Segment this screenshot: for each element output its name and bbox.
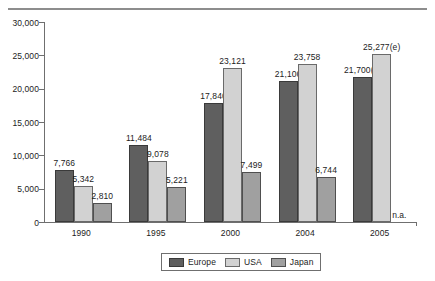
x-axis-line	[44, 222, 417, 223]
bar-usa-2005: 25,277(e)	[372, 54, 391, 223]
legend-label: USA	[244, 257, 262, 267]
y-tick-mark	[39, 155, 44, 156]
y-tick-label: 30,000	[12, 18, 39, 28]
x-axis-label-1990: 1990	[44, 228, 119, 238]
bar-value-label: 5,221	[166, 175, 188, 185]
bar-japan-1995: 5,221	[167, 187, 186, 222]
y-tick-label: 10,000	[12, 151, 39, 161]
bar-chart-figure: 05,00010,00015,00020,00025,00030,000 7,7…	[0, 0, 435, 281]
y-tick: 0	[44, 222, 45, 223]
bar-value-label: 7,499	[241, 160, 263, 170]
x-axis-label-2000: 2000	[193, 228, 268, 238]
bar-value-label: 11,484	[126, 133, 152, 143]
bar-usa-1990: 5,342	[74, 186, 93, 222]
usa-swatch	[225, 258, 240, 267]
bar-value-label: 25,277(e)	[363, 42, 400, 52]
bar-europe-2004: 21,106	[279, 81, 298, 222]
bar-value-label: 6,744	[315, 165, 337, 175]
y-tick-label: 0	[34, 218, 39, 228]
bar-value-label: 2,810	[91, 191, 113, 201]
bar-value-label: 5,342	[72, 174, 94, 184]
bar-japan-2004: 6,744	[317, 177, 336, 222]
x-axis-end-tick	[416, 222, 417, 226]
legend-label: Europe	[188, 257, 216, 267]
japan-swatch	[271, 258, 286, 267]
bar-value-label: 23,121	[219, 56, 246, 66]
y-tick-mark	[39, 22, 44, 23]
y-tick-mark	[39, 55, 44, 56]
bar-usa-2000: 23,121	[223, 68, 242, 222]
bar-europe-1990: 7,766	[55, 170, 74, 222]
bar-value-label: 7,766	[53, 158, 75, 168]
y-tick-mark	[39, 89, 44, 90]
plot-area: 05,00010,00015,00020,00025,00030,000 7,7…	[44, 22, 417, 222]
y-tick: 5,000	[44, 189, 45, 190]
y-tick: 15,000	[44, 122, 45, 123]
y-tick-mark	[39, 189, 44, 190]
y-tick-mark	[39, 122, 44, 123]
bar-europe-1995: 11,484	[129, 145, 148, 222]
y-tick-label: 20,000	[12, 84, 39, 94]
legend-item-europe: Europe	[169, 257, 216, 267]
y-tick-label: 5,000	[17, 184, 39, 194]
legend-label: Japan	[290, 257, 314, 267]
y-tick-label: 15,000	[12, 118, 39, 128]
bar-europe-2000: 17,840	[204, 103, 223, 222]
bar-europe-2005: 21,700(e)	[353, 77, 372, 222]
y-tick: 20,000	[44, 89, 45, 90]
bar-japan-2000: 7,499	[242, 172, 261, 222]
bar-value-label: 9,078	[147, 149, 169, 159]
not-available-label: n.a.	[392, 210, 406, 220]
top-divider-rule	[8, 8, 427, 10]
bar-japan-1990: 2,810	[93, 203, 112, 222]
x-axis-label-2005: 2005	[342, 228, 417, 238]
x-axis-label-2004: 2004	[268, 228, 343, 238]
bar-value-label: 23,758	[294, 52, 321, 62]
y-tick: 10,000	[44, 155, 45, 156]
x-axis-label-1995: 1995	[119, 228, 194, 238]
bar-usa-1995: 9,078	[148, 161, 167, 222]
y-tick: 25,000	[44, 55, 45, 56]
bar-usa-2004: 23,758	[298, 64, 317, 222]
y-tick: 30,000	[44, 22, 45, 23]
y-tick-mark	[39, 222, 44, 223]
legend-item-usa: USA	[225, 257, 262, 267]
chart-legend: EuropeUSAJapan	[161, 253, 321, 271]
y-tick-label: 25,000	[12, 51, 39, 61]
europe-swatch	[169, 258, 184, 267]
legend-item-japan: Japan	[271, 257, 314, 267]
